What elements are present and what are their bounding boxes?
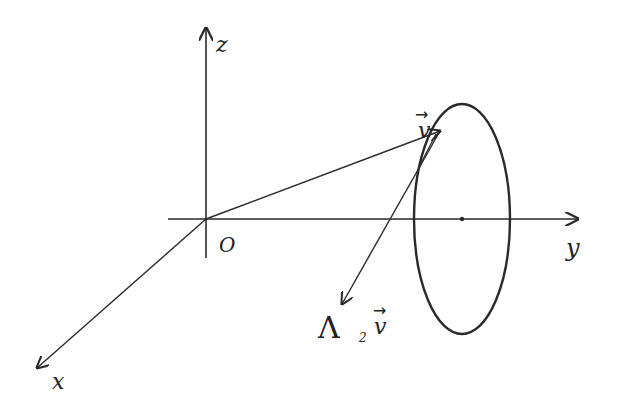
x-axis-label: x [52,369,65,394]
vector-v [206,131,440,219]
y-axis-label: y [565,234,580,262]
coordinate-diagram: z y x O v → Λ 2 v → [0,0,619,404]
vector-v-label: v → [415,105,431,143]
origin-label: O [219,233,235,257]
svg-text:2: 2 [358,331,367,345]
svg-text:→: → [415,105,428,124]
svg-text:→: → [373,301,386,320]
z-axis-label: z [215,32,228,57]
vector-lambda-v [342,131,440,304]
x-axis [37,219,206,368]
ellipse-center-dot [460,217,464,221]
svg-text:Λ: Λ [317,310,340,345]
vector-lambda-v-label: Λ 2 v → [317,301,387,345]
